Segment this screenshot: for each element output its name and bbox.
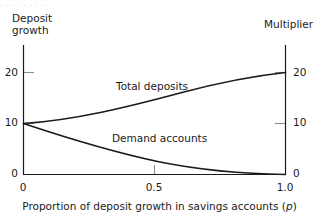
series-label-total-deposits: Total deposits	[116, 81, 188, 92]
x-axis-title-tail: )	[293, 200, 297, 212]
chart-figure: . . . . . . . . . Deposit growth Multipl…	[0, 0, 319, 220]
x-axis-title-text: Proportion of deposit growth in savings …	[22, 200, 286, 212]
plot-area	[0, 0, 319, 220]
x-axis-title: Proportion of deposit growth in savings …	[0, 201, 319, 213]
series-label-demand-accounts: Demand accounts	[112, 133, 207, 144]
x-axis-title-symbol: p	[286, 200, 293, 212]
